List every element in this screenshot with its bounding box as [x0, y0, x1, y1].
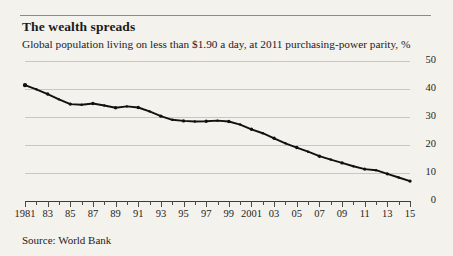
x-axis-tick — [387, 201, 388, 207]
x-axis-tick — [104, 201, 105, 205]
x-axis-tick — [150, 201, 151, 205]
gridline — [25, 89, 410, 90]
x-axis-tick — [365, 201, 366, 207]
gridline — [25, 173, 410, 174]
x-axis-tick — [70, 201, 71, 207]
x-axis-tick-label: 91 — [133, 208, 144, 219]
x-axis-tick — [172, 201, 173, 205]
x-axis-tick — [25, 201, 26, 207]
x-axis-tick-label: 99 — [224, 208, 235, 219]
x-axis-tick-label: 05 — [292, 208, 303, 219]
x-axis-tick-label: 87 — [88, 208, 99, 219]
x-axis-tick — [342, 201, 343, 207]
plot-area — [25, 61, 410, 201]
x-axis-tick-label: 11 — [360, 208, 370, 219]
x-axis-tick — [376, 201, 377, 205]
x-axis-tick — [195, 201, 196, 205]
x-axis-tick — [229, 201, 230, 207]
x-axis-tick-label: 13 — [382, 208, 393, 219]
gridline — [25, 145, 410, 146]
x-axis-tick — [297, 201, 298, 207]
x-axis-tick — [206, 201, 207, 207]
x-axis-tick — [48, 201, 49, 207]
x-axis-tick — [308, 201, 309, 205]
x-axis-tick — [240, 201, 241, 205]
x-axis-tick — [161, 201, 162, 207]
chart-card: The wealth spreads Global population liv… — [0, 0, 453, 256]
x-axis-tick — [251, 201, 252, 207]
y-axis-tick-label: 30 — [414, 110, 436, 121]
x-axis-tick — [93, 201, 94, 207]
x-axis-tick — [218, 201, 219, 205]
x-axis-tick-label: 09 — [337, 208, 348, 219]
x-axis-tick-label: 03 — [269, 208, 280, 219]
y-axis-tick-label: 10 — [414, 166, 436, 177]
x-axis-tick-label: 1981 — [15, 208, 36, 219]
x-axis-tick-label: 95 — [178, 208, 189, 219]
source-note: Source: World Bank — [22, 234, 111, 246]
y-axis-tick-label: 20 — [414, 138, 436, 149]
x-axis-tick — [127, 201, 128, 205]
x-axis-tick — [331, 201, 332, 205]
page-title: The wealth spreads — [22, 19, 135, 35]
x-axis-tick — [285, 201, 286, 205]
x-axis-tick — [138, 201, 139, 207]
x-axis-tick — [399, 201, 400, 205]
x-axis-tick-label: 2001 — [241, 208, 262, 219]
x-axis-tick — [82, 201, 83, 205]
x-axis-tick — [353, 201, 354, 205]
x-axis-tick — [319, 201, 320, 207]
header-divider — [20, 15, 431, 16]
y-axis-tick-label: 40 — [414, 82, 436, 93]
y-axis-tick-label: 50 — [414, 54, 436, 65]
gridline — [25, 117, 410, 118]
gridline — [25, 61, 410, 62]
x-axis-tick-label: 93 — [156, 208, 167, 219]
chart-subtitle: Global population living on less than $1… — [22, 38, 410, 50]
x-axis-tick-label: 07 — [314, 208, 325, 219]
x-axis-tick — [274, 201, 275, 207]
x-axis-tick-label: 89 — [110, 208, 121, 219]
x-axis-tick-label: 15 — [405, 208, 416, 219]
x-axis-tick-label: 85 — [65, 208, 76, 219]
x-axis-tick — [410, 201, 411, 207]
x-axis-tick — [184, 201, 185, 207]
x-axis-tick — [263, 201, 264, 205]
x-axis-tick-label: 97 — [201, 208, 212, 219]
x-axis-tick — [36, 201, 37, 205]
y-axis-tick-label: 0 — [414, 194, 436, 205]
x-axis-tick-label: 83 — [42, 208, 53, 219]
x-axis-tick — [59, 201, 60, 205]
x-axis-tick — [116, 201, 117, 207]
